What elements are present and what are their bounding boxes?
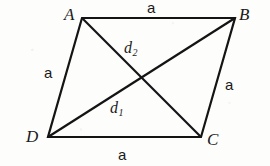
diagonal-d1-symbol: d [110,99,118,116]
side-label-bc: a [225,77,233,92]
side-label-ad: a [44,65,52,80]
vertex-label-c: C [207,131,218,148]
vertex-label-b: B [239,6,249,23]
diagonal-d2-symbol: d [124,39,132,56]
diagonal-d2-subscript: 2 [133,47,138,58]
diagonal-label-d1: d1 [110,100,123,116]
diagonal-d2-line [82,18,201,137]
rhombus-figure: A B C D a a a a d2 d1 [0,0,270,166]
diagonal-d1-subscript: 1 [119,107,124,118]
diagonal-label-d2: d2 [124,40,137,56]
side-label-ab: a [147,0,155,15]
side-label-dc: a [118,147,126,162]
vertex-label-d: D [26,128,38,145]
vertex-label-a: A [64,6,74,23]
